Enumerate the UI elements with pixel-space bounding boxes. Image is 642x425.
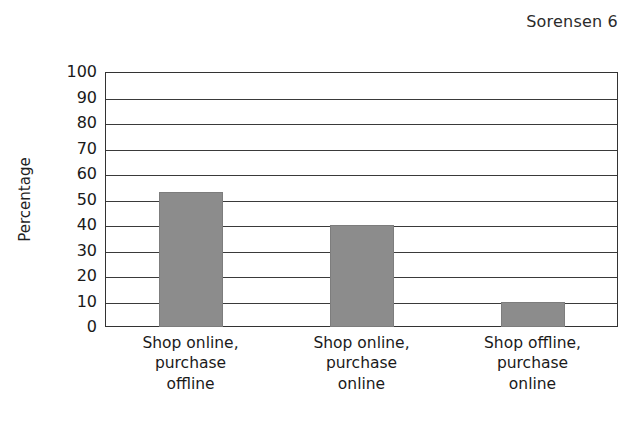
bar xyxy=(501,302,565,328)
x-axis-label-line: Shop offline, xyxy=(447,333,618,353)
x-axis-category-label: Shop online,purchaseoffline xyxy=(105,333,276,394)
y-axis-tick-label: 50 xyxy=(77,192,97,208)
y-axis-tick-label: 70 xyxy=(77,141,97,157)
y-axis-tick-label: 80 xyxy=(77,115,97,131)
y-axis-tick-label: 90 xyxy=(77,90,97,106)
bar-chart-figure: Percentage 1009080706050403020100 Shop o… xyxy=(0,0,642,425)
x-axis-label-line: purchase xyxy=(105,353,276,373)
y-axis-tick-labels: 1009080706050403020100 xyxy=(45,72,97,327)
y-axis-tick-label: 40 xyxy=(77,217,97,233)
x-axis-category-labels: Shop online,purchaseofflineShop online,p… xyxy=(105,333,618,411)
y-axis-tick-label: 30 xyxy=(77,243,97,259)
x-axis-label-line: Shop online, xyxy=(105,333,276,353)
y-axis-title: Percentage xyxy=(12,72,38,327)
y-axis-tick-label: 10 xyxy=(77,294,97,310)
bar-series xyxy=(105,72,618,327)
x-axis-label-line: purchase xyxy=(447,353,618,373)
x-axis-label-line: online xyxy=(447,374,618,394)
y-axis-tick-label: 60 xyxy=(77,166,97,182)
y-axis-tick-label: 0 xyxy=(87,319,97,335)
x-axis-label-line: purchase xyxy=(276,353,447,373)
x-axis-category-label: Shop offline,purchaseonline xyxy=(447,333,618,394)
x-axis-label-line: offline xyxy=(105,374,276,394)
bar xyxy=(159,192,223,327)
y-axis-tick-label: 100 xyxy=(66,64,97,80)
bar xyxy=(330,225,394,327)
x-axis-label-line: online xyxy=(276,374,447,394)
y-axis-tick-label: 20 xyxy=(77,268,97,284)
x-axis-label-line: Shop online, xyxy=(276,333,447,353)
x-axis-category-label: Shop online,purchaseonline xyxy=(276,333,447,394)
